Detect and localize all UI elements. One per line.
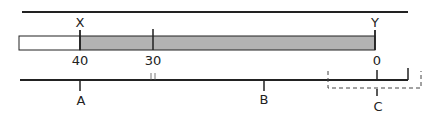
diagram-canvas: X Y 40 30 0 A B C: [0, 0, 437, 118]
point-b-label: B: [260, 92, 269, 107]
marker-y-label: Y: [370, 15, 379, 30]
marker-x-label: X: [76, 15, 85, 30]
diagram: X Y 40 30 0 A B C: [0, 0, 437, 118]
scale-label-right: 0: [373, 53, 381, 68]
scale-label-left: 40: [72, 53, 89, 68]
bar-filled-segment: [80, 36, 375, 50]
point-c-label: C: [373, 99, 382, 114]
point-a-label: A: [77, 93, 86, 108]
scale-label-mid: 30: [145, 53, 162, 68]
bar-empty-segment: [19, 36, 80, 50]
